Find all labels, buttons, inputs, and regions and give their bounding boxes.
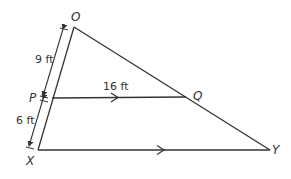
triangle-diagram: O P X Q Y 9 ft 6 ft 16 ft	[0, 0, 291, 179]
label-Y: Y	[272, 143, 281, 157]
measure-PQ: 16 ft	[103, 80, 129, 93]
measure-PX: 6 ft	[16, 114, 35, 127]
label-O: O	[71, 10, 80, 24]
side-OX	[38, 27, 74, 150]
label-P: P	[29, 91, 37, 105]
measure-OP: 9 ft	[35, 53, 54, 66]
label-Q: Q	[193, 89, 202, 103]
label-X: X	[25, 154, 35, 168]
